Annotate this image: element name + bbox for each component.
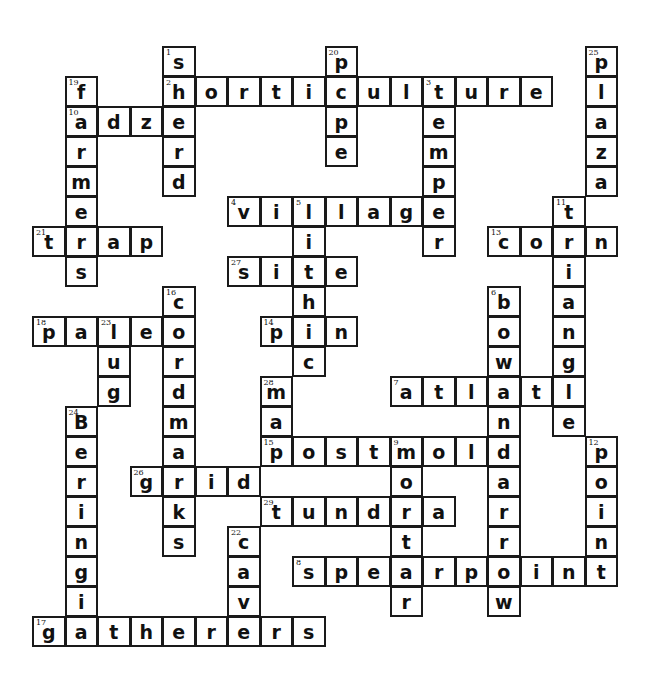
crossword-cell[interactable]: u — [455, 76, 489, 107]
crossword-cell[interactable]: k — [162, 496, 196, 527]
crossword-cell[interactable]: 1s — [162, 46, 196, 77]
crossword-cell[interactable]: s — [162, 526, 196, 557]
crossword-cell[interactable]: e — [422, 196, 456, 227]
crossword-cell[interactable]: 13c — [487, 226, 521, 257]
crossword-cell[interactable]: r — [65, 226, 99, 257]
crossword-cell[interactable]: u — [292, 496, 326, 527]
crossword-cell[interactable]: 4v — [227, 196, 261, 227]
crossword-cell[interactable]: 28m — [260, 376, 294, 407]
crossword-cell[interactable]: p — [422, 166, 456, 197]
crossword-cell[interactable]: 21t — [32, 226, 66, 257]
crossword-cell[interactable]: w — [487, 586, 521, 617]
crossword-cell[interactable]: a — [422, 496, 456, 527]
crossword-cell[interactable]: r — [390, 586, 424, 617]
crossword-cell[interactable]: d — [357, 496, 391, 527]
crossword-cell[interactable]: o — [487, 556, 521, 587]
crossword-cell[interactable]: a — [227, 556, 261, 587]
crossword-cell[interactable]: 27s — [227, 256, 261, 287]
crossword-cell[interactable]: s — [65, 256, 99, 287]
crossword-cell[interactable]: r — [422, 226, 456, 257]
crossword-cell[interactable]: 20p — [325, 46, 359, 77]
crossword-cell[interactable]: p — [455, 556, 489, 587]
crossword-cell[interactable]: t — [292, 256, 326, 287]
crossword-cell[interactable]: i — [585, 496, 619, 527]
crossword-cell[interactable]: t — [390, 526, 424, 557]
crossword-cell[interactable]: e — [422, 106, 456, 137]
crossword-cell[interactable]: a — [65, 316, 99, 347]
crossword-cell[interactable]: i — [292, 316, 326, 347]
crossword-cell[interactable]: i — [65, 586, 99, 617]
crossword-cell[interactable]: a — [260, 406, 294, 437]
crossword-cell[interactable]: p — [325, 556, 359, 587]
crossword-cell[interactable]: m — [65, 166, 99, 197]
crossword-cell[interactable]: a — [97, 226, 131, 257]
crossword-cell[interactable]: o — [520, 226, 554, 257]
crossword-cell[interactable]: a — [487, 466, 521, 497]
crossword-cell[interactable]: i — [292, 226, 326, 257]
crossword-cell[interactable]: h — [130, 616, 164, 647]
crossword-cell[interactable]: g — [65, 556, 99, 587]
crossword-cell[interactable]: t — [520, 376, 554, 407]
crossword-cell[interactable]: e — [65, 196, 99, 227]
crossword-cell[interactable]: 6b — [487, 286, 521, 317]
crossword-cell[interactable]: 5l — [292, 196, 326, 227]
crossword-cell[interactable]: l — [325, 196, 359, 227]
crossword-cell[interactable]: g — [390, 196, 424, 227]
crossword-cell[interactable]: r — [65, 466, 99, 497]
crossword-cell[interactable]: o — [390, 466, 424, 497]
crossword-cell[interactable]: o — [195, 76, 229, 107]
crossword-cell[interactable]: l — [390, 76, 424, 107]
crossword-cell[interactable]: n — [585, 226, 619, 257]
crossword-cell[interactable]: c — [325, 76, 359, 107]
crossword-cell[interactable]: t — [357, 436, 391, 467]
crossword-cell[interactable]: p — [130, 226, 164, 257]
crossword-cell[interactable]: r — [422, 556, 456, 587]
crossword-cell[interactable]: d — [487, 436, 521, 467]
crossword-cell[interactable]: d — [162, 166, 196, 197]
crossword-cell[interactable]: 24B — [65, 406, 99, 437]
crossword-cell[interactable]: e — [325, 256, 359, 287]
crossword-cell[interactable]: t — [422, 376, 456, 407]
crossword-cell[interactable]: s — [325, 436, 359, 467]
crossword-cell[interactable]: c — [292, 346, 326, 377]
crossword-cell[interactable]: i — [552, 256, 586, 287]
crossword-cell[interactable]: n — [552, 316, 586, 347]
crossword-cell[interactable]: a — [390, 556, 424, 587]
crossword-cell[interactable]: o — [162, 316, 196, 347]
crossword-cell[interactable]: t — [260, 76, 294, 107]
crossword-cell[interactable]: n — [325, 496, 359, 527]
crossword-cell[interactable]: 7a — [390, 376, 424, 407]
crossword-cell[interactable]: 17g — [32, 616, 66, 647]
crossword-cell[interactable]: a — [487, 376, 521, 407]
crossword-cell[interactable]: n — [552, 556, 586, 587]
crossword-cell[interactable]: r — [195, 616, 229, 647]
crossword-cell[interactable]: z — [130, 106, 164, 137]
crossword-cell[interactable]: r — [260, 616, 294, 647]
crossword-cell[interactable]: 18p — [32, 316, 66, 347]
crossword-cell[interactable]: t — [97, 616, 131, 647]
crossword-cell[interactable]: d — [227, 466, 261, 497]
crossword-cell[interactable]: r — [227, 76, 261, 107]
crossword-cell[interactable]: n — [65, 526, 99, 557]
crossword-cell[interactable]: 22c — [227, 526, 261, 557]
crossword-cell[interactable]: 26g — [130, 466, 164, 497]
crossword-cell[interactable]: e — [130, 316, 164, 347]
crossword-cell[interactable]: e — [357, 556, 391, 587]
crossword-cell[interactable]: a — [162, 436, 196, 467]
crossword-cell[interactable]: o — [487, 316, 521, 347]
crossword-cell[interactable]: h — [292, 286, 326, 317]
crossword-cell[interactable]: i — [65, 496, 99, 527]
crossword-cell[interactable]: r — [390, 496, 424, 527]
crossword-cell[interactable]: o — [422, 436, 456, 467]
crossword-cell[interactable]: 15p — [260, 436, 294, 467]
crossword-cell[interactable]: n — [487, 406, 521, 437]
crossword-cell[interactable]: e — [227, 616, 261, 647]
crossword-cell[interactable]: m — [422, 136, 456, 167]
crossword-cell[interactable]: 2h — [162, 76, 196, 107]
crossword-cell[interactable]: i — [195, 466, 229, 497]
crossword-cell[interactable]: 29t — [260, 496, 294, 527]
crossword-cell[interactable]: 9m — [390, 436, 424, 467]
crossword-cell[interactable]: r — [65, 136, 99, 167]
crossword-cell[interactable]: 3t — [422, 76, 456, 107]
crossword-cell[interactable]: l — [455, 376, 489, 407]
